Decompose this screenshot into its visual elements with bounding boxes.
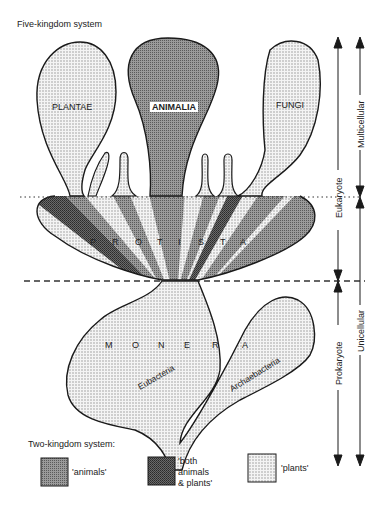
svg-text:I: I xyxy=(178,237,181,247)
svg-text:R: R xyxy=(212,340,219,350)
protrusion xyxy=(218,154,238,196)
legend-swatch-both xyxy=(148,457,175,485)
legend-label-both-line3: & plants' xyxy=(178,478,213,488)
unicellular-label: Unicellular xyxy=(356,310,366,352)
svg-text:N: N xyxy=(158,340,165,350)
svg-text:M: M xyxy=(105,340,113,350)
svg-text:E: E xyxy=(184,340,190,350)
protrusion xyxy=(196,154,214,196)
legend-title: Two-kingdom system: xyxy=(28,439,115,449)
eukaryote-label: Eukaryote xyxy=(334,177,344,218)
fungi-shape xyxy=(238,41,320,196)
svg-text:T: T xyxy=(220,237,226,247)
legend-label-both-line1: 'both xyxy=(178,456,197,466)
animalia-label: ANIMALIA xyxy=(152,102,196,112)
prokaryote-label: Prokaryote xyxy=(334,341,344,385)
legend-label-plants: 'plants' xyxy=(281,463,309,473)
svg-text:O: O xyxy=(135,237,142,247)
multicellular-label: Multicellular xyxy=(356,100,366,148)
fungi-label: FUNGI xyxy=(276,100,304,110)
svg-text:A: A xyxy=(240,237,246,247)
legend-swatch-animals xyxy=(41,458,68,486)
legend-label-both-line2: animals xyxy=(178,467,210,477)
svg-text:A: A xyxy=(242,340,248,350)
legend-swatch-plants xyxy=(248,454,276,482)
protista-region xyxy=(20,190,330,285)
diagram-title: Five-kingdom system xyxy=(17,19,102,29)
legend-label-animals: 'animals' xyxy=(72,467,107,477)
svg-text:S: S xyxy=(198,237,204,247)
svg-text:P: P xyxy=(90,237,96,247)
svg-text:R: R xyxy=(112,237,119,247)
eukaryote-axis xyxy=(334,37,342,466)
five-kingdom-diagram: Five-kingdom system PLANTAE ANIMALIA FUN… xyxy=(0,0,385,509)
svg-text:O: O xyxy=(132,340,139,350)
plantae-label: PLANTAE xyxy=(52,102,92,112)
protrusion xyxy=(112,153,136,197)
svg-text:T: T xyxy=(157,237,163,247)
